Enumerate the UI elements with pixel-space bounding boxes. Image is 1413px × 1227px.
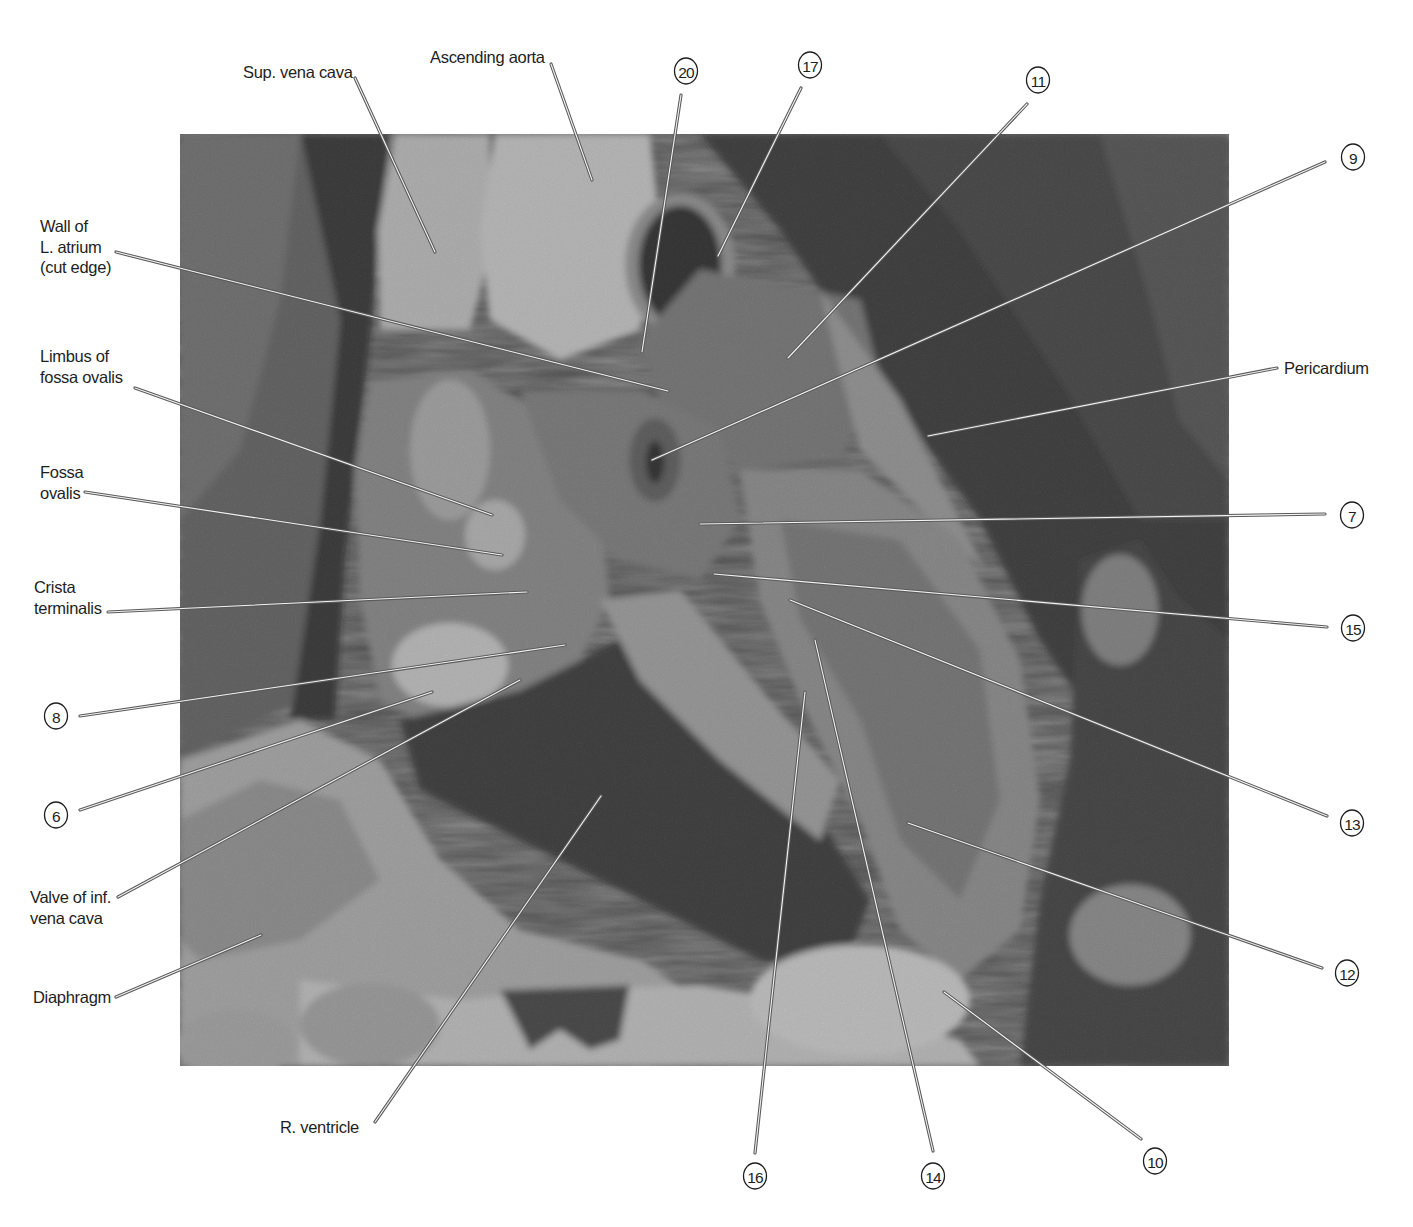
label-line: (cut edge) (40, 258, 111, 276)
callout-15: 15 (1342, 615, 1365, 641)
callout-number: 8 (52, 709, 60, 726)
label-line: vena cava (30, 909, 104, 927)
label-line: ovalis (40, 484, 80, 502)
label-r-ventricle: R. ventricle (280, 1118, 359, 1136)
callout-number: 16 (747, 1169, 763, 1186)
label-diaphragm: Diaphragm (33, 988, 111, 1006)
label-line: Crista (34, 578, 76, 596)
callout-7: 7 (1341, 502, 1364, 528)
callout-number: 9 (1349, 150, 1357, 167)
label-ascending-aorta: Ascending aorta (430, 48, 546, 66)
label-line: Valve of inf. (30, 888, 111, 906)
label-line: terminalis (34, 599, 102, 617)
label-valve-of-inf-vena-cava: Valve of inf.vena cava (30, 888, 111, 927)
callout-number: 13 (1344, 816, 1360, 833)
label-line: Fossa (40, 463, 85, 481)
callout-9: 9 (1342, 144, 1365, 170)
callout-14: 14 (922, 1163, 945, 1189)
label-wall-of-l-atrium: Wall ofL. atrium(cut edge) (40, 217, 111, 276)
callout-17: 17 (799, 52, 822, 78)
callout-12: 12 (1336, 960, 1359, 986)
callout-number: 17 (802, 58, 818, 75)
label-line: Wall of (40, 217, 88, 235)
callout-13: 13 (1341, 810, 1364, 836)
callout-8: 8 (45, 703, 68, 729)
label-crista-terminalis: Cristaterminalis (34, 578, 102, 617)
label-line: Diaphragm (33, 988, 111, 1006)
label-fossa-ovalis: Fossaovalis (40, 463, 85, 502)
callout-number: 15 (1345, 621, 1361, 638)
label-line: Sup. vena cava (243, 63, 354, 81)
callout-number: 14 (925, 1169, 942, 1186)
callout-number: 10 (1147, 1154, 1164, 1171)
label-line: Pericardium (1284, 359, 1369, 377)
callout-number: 11 (1031, 73, 1046, 90)
label-pericardium: Pericardium (1284, 359, 1369, 377)
callout-number: 6 (52, 808, 60, 825)
callout-6: 6 (45, 802, 68, 828)
label-line: Limbus of (40, 347, 110, 365)
label-line: Ascending aorta (430, 48, 546, 66)
label-limbus-of-fossa-ovalis: Limbus offossa ovalis (40, 347, 123, 386)
label-line: R. ventricle (280, 1118, 359, 1136)
callout-number: 12 (1339, 966, 1355, 983)
callout-20: 20 (675, 58, 698, 84)
callout-number: 7 (1348, 508, 1356, 525)
label-sup-vena-cava: Sup. vena cava (243, 63, 354, 81)
label-line: fossa ovalis (40, 368, 123, 386)
callout-16: 16 (744, 1163, 767, 1189)
callout-number: 20 (678, 64, 695, 81)
label-line: L. atrium (40, 238, 102, 256)
callout-11: 11 (1027, 67, 1050, 93)
anatomy-figure: Sup. vena cavaAscending aortaWall ofL. a… (0, 0, 1413, 1227)
callout-10: 10 (1144, 1148, 1167, 1174)
